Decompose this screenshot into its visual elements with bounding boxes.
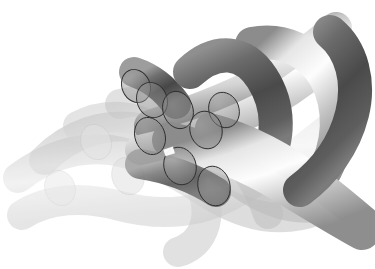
figure-container: Helical tube bundle 3D rendering Graysca…	[0, 0, 375, 269]
helical-tube-bundle-render	[0, 0, 375, 269]
